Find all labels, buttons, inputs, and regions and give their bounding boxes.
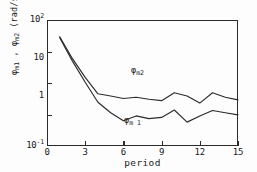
x-tick-label-9: 9 [154,148,170,157]
y-axis-label-sub1: m1 [13,62,21,70]
y-tick-mantissa: 10 [30,14,40,24]
y-tick-label-1: 1 [39,91,44,100]
y-tick-exponent: -1 [37,138,44,146]
curve-label-subscript: m2 [136,69,144,77]
y-axis-label-units: (rad/s) [9,0,19,33]
x-tick-mark-0 [47,141,48,146]
y-axis-label-wrapper: φm1 , φm2 (rad/s)2 [5,0,23,93]
curve-label-phi-m2: φm2 [131,66,144,75]
y-tick-exponent: 2 [40,12,44,20]
x-tick-mark-3 [85,141,86,146]
y-tick-mantissa: 1 [39,90,44,100]
x-axis-label: period [47,158,238,168]
y-tick-label-100: 102 [30,15,44,24]
y-axis-label-phi1: φ [9,70,19,75]
x-tick-label-15: 15 [230,148,246,157]
x-tick-label-12: 12 [192,148,208,157]
y-axis-label: φm1 , φm2 (rad/s)2 [9,0,19,75]
y-axis-label-sub2: m2 [13,33,21,41]
x-tick-label-0: 0 [39,148,55,157]
data-line-phi-m2 [60,37,238,103]
chart-plot-area [47,20,238,146]
y-axis-label-separator: , [9,46,19,62]
y-axis-label-phi2: φ [9,41,19,46]
x-tick-label-3: 3 [77,148,93,157]
curve-label-phi-m1: φm 1 [124,116,141,125]
y-tick-mantissa: 10 [26,140,36,150]
y-tick-label-10: 10 [34,53,44,62]
x-tick-mark-12 [200,141,201,146]
x-tick-mark-9 [162,141,163,146]
x-tick-mark-6 [123,141,124,146]
curve-label-subscript: m 1 [129,119,141,127]
x-tick-label-6: 6 [115,148,131,157]
y-tick-mantissa: 10 [34,52,44,62]
x-tick-mark-15 [237,141,238,146]
figure-container: φm1 , φm2 (rad/s)2 102 10 1 10-1 φm2 φm … [0,0,257,172]
